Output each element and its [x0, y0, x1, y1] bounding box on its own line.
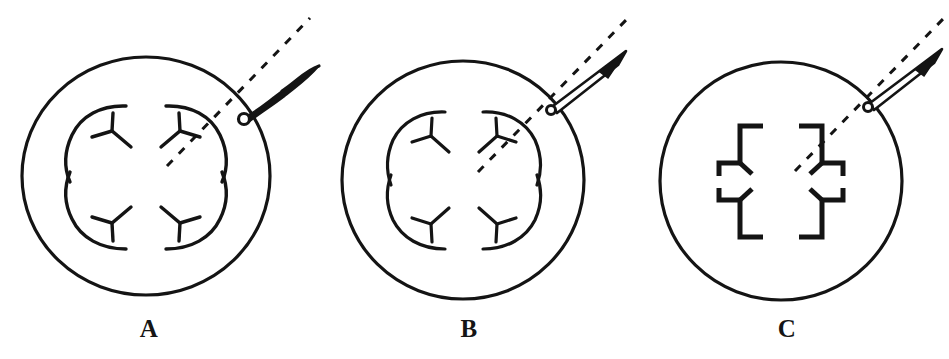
panel-b-attachment-node: [547, 106, 556, 115]
panel-a-lobe-bottom-left-stem: [112, 223, 113, 241]
panel-c-bracket-top-left: [719, 126, 763, 176]
panel-b-lobe-bottom-left-arc: [387, 175, 445, 249]
panel-a-lobe-bottom-left-fork: [92, 207, 131, 223]
panel-label-c: C: [757, 316, 817, 341]
panel-a-stalk: [245, 67, 318, 122]
panel-c-bracket-top-right: [799, 126, 843, 176]
panel-a-lobe-bottom-right-arc: [166, 172, 226, 249]
panel-a-rosette: [66, 106, 227, 249]
panel-b-lobe-bottom-left-stem: [431, 224, 432, 242]
panel-b-lobe-top-right-fork: [479, 136, 516, 152]
panel-a-stalk-upper-curve: [282, 66, 319, 91]
panel-a-lobe-bottom-right-fork: [161, 207, 200, 223]
panel-b-lobe-top-left-arc: [387, 112, 445, 185]
panel-c-fork-top-right: [810, 163, 822, 174]
panel-b-lobe-bottom-left-fork: [412, 208, 449, 224]
panel-b-axis-dashed-line: [478, 18, 628, 172]
panel-b: [342, 18, 628, 299]
panel-b-lobe-bottom-right-arc: [483, 175, 541, 249]
scientific-figure-drawing: [0, 0, 949, 359]
panel-a-lobe-top-left-fork: [92, 131, 131, 147]
panel-c: [660, 18, 944, 300]
panel-a-outline-circle: [22, 57, 270, 295]
panel-b-stalk-tip-solid: [600, 51, 626, 78]
panel-b-lobe-top-left-fork: [412, 136, 449, 152]
panel-b-lobe-top-right-arc: [483, 112, 541, 185]
panel-c-fork-top-left: [740, 163, 752, 174]
panel-label-a: A: [119, 316, 179, 341]
panel-a-attachment-node: [239, 114, 250, 125]
panel-c-attachment-node: [864, 103, 873, 112]
panel-c-outline-circle: [660, 62, 902, 300]
panel-a-lobe-top-right-stem: [179, 113, 180, 131]
panel-c-bracket-bottom-right: [799, 188, 843, 237]
panel-c-fork-bottom-right: [810, 189, 822, 200]
panel-c-axis-dashed-line: [795, 18, 944, 171]
panel-c-fork-bottom-left: [740, 189, 752, 200]
figure-container: A B C: [0, 0, 949, 359]
panel-label-b: B: [439, 316, 499, 341]
panel-a-lobe-bottom-left-arc: [66, 172, 126, 249]
panel-b-lobe-bottom-right-stem: [496, 224, 497, 242]
panel-c-bracket-bottom-left: [719, 188, 763, 237]
panel-b-outline-circle: [342, 61, 584, 299]
panel-b-lobe-bottom-right-fork: [479, 208, 516, 224]
panel-a-lobe-top-left-arc: [66, 106, 126, 182]
panel-b-lobe-top-left-stem: [431, 118, 432, 136]
panel-a: [22, 18, 319, 295]
panel-a-lobe-top-left-stem: [112, 113, 113, 131]
panel-a-lobe-top-right-arc: [166, 106, 226, 182]
panel-b-lobe-top-right-stem: [496, 118, 497, 136]
panel-a-lobe-bottom-right-stem: [179, 223, 180, 241]
panel-c-stalk-tip-solid: [916, 49, 942, 76]
